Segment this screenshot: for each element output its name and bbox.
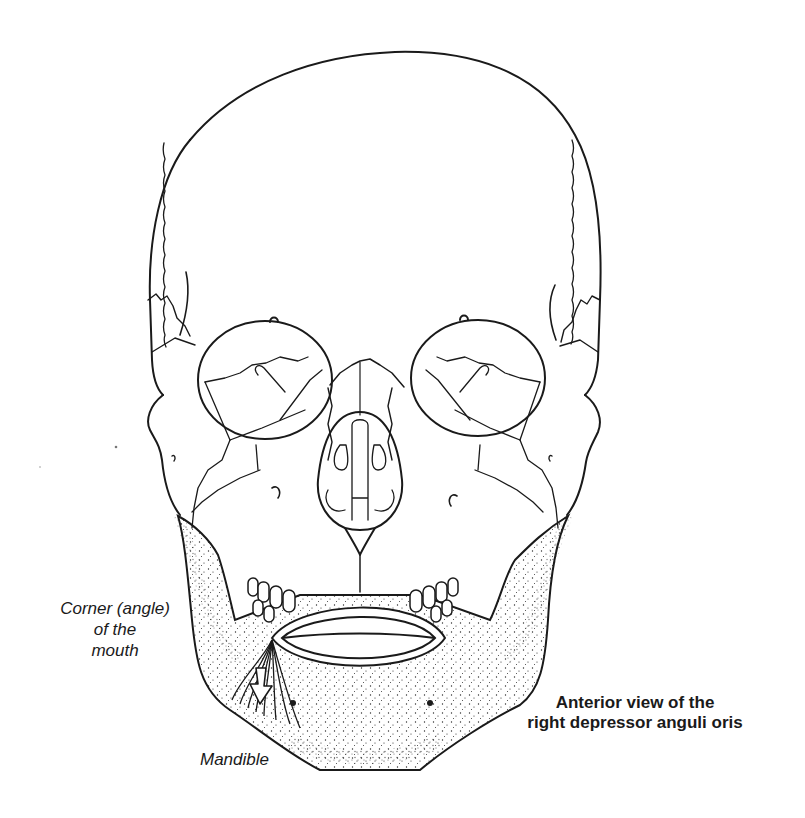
corner-of-mouth-label: Corner (angle) of the mouth xyxy=(40,598,190,661)
right-orbit xyxy=(411,320,545,436)
cranium-outline xyxy=(190,52,601,395)
figure-caption: Anterior view of the right depressor ang… xyxy=(485,693,785,733)
anatomy-figure: Corner (angle) of the mouth Mandible Ant… xyxy=(0,0,805,818)
mandible-label: Mandible xyxy=(200,749,269,770)
nasal-aperture xyxy=(318,412,402,530)
